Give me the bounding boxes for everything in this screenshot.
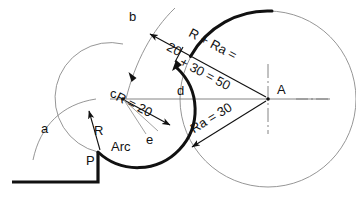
label-point-d: d <box>177 84 184 97</box>
label-center-A: A <box>277 83 286 96</box>
label-point-e: e <box>146 133 153 146</box>
label-point-P: P <box>86 154 95 167</box>
label-arc-text: Arc <box>111 140 131 153</box>
technical-drawing-canvas: b c d a e P A R Arc R = 20 Ra = 30 R + R… <box>0 0 356 204</box>
label-radius-R: R <box>94 124 103 137</box>
center-point-A <box>266 97 270 101</box>
label-point-a: a <box>41 122 48 135</box>
label-point-b: b <box>129 10 136 23</box>
drawing-svg <box>0 0 356 204</box>
arc-b-arrowhead <box>129 72 137 82</box>
